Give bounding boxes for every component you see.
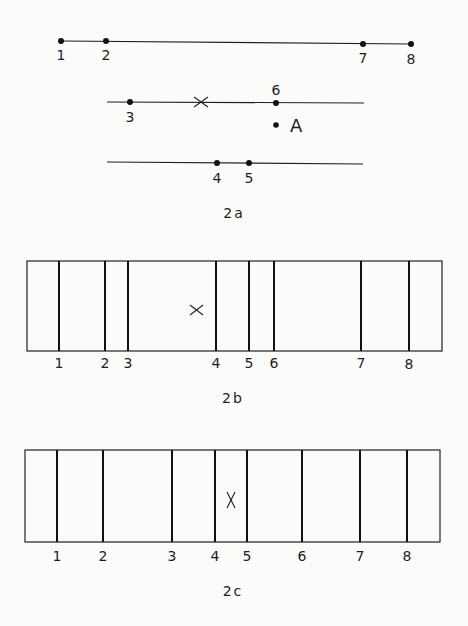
divider-3-label: 3 xyxy=(124,355,133,371)
point-1-label: 1 xyxy=(57,47,66,63)
divider-8-label: 8 xyxy=(405,356,414,372)
line-bottom xyxy=(107,162,363,164)
strip-box-2b xyxy=(27,261,442,351)
caption-2a: 2a xyxy=(223,205,245,221)
divider-2-label: 2 xyxy=(99,548,108,564)
line-middle xyxy=(107,102,364,103)
divider-7-label: 7 xyxy=(357,355,366,371)
panel-2b: 1 2 3 4 5 6 7 8 2b xyxy=(27,261,442,406)
divider-7-label: 7 xyxy=(356,548,365,564)
point-a xyxy=(273,122,279,128)
divider-5-label: 5 xyxy=(245,355,254,371)
figure-2: 1 2 7 8 3 6 A 4 5 2a xyxy=(0,0,468,626)
point-3-label: 3 xyxy=(126,109,135,125)
caption-2b: 2b xyxy=(222,390,244,406)
divider-1-label: 1 xyxy=(53,548,62,564)
divider-4-label: 4 xyxy=(211,548,220,564)
cross-mark-icon xyxy=(190,305,203,315)
point-7-label: 7 xyxy=(359,50,368,66)
divider-3-label: 3 xyxy=(168,548,177,564)
divider-2-label: 2 xyxy=(101,355,110,371)
divider-6-label: 6 xyxy=(270,355,279,371)
divider-5-label: 5 xyxy=(243,548,252,564)
point-2 xyxy=(103,38,109,44)
point-8 xyxy=(408,41,414,47)
point-7 xyxy=(360,41,366,47)
panel-2c: 1 2 3 4 5 6 7 8 2c xyxy=(25,450,440,599)
point-a-label: A xyxy=(290,115,303,136)
divider-4-label: 4 xyxy=(212,355,221,371)
point-5 xyxy=(246,160,252,166)
point-4-label: 4 xyxy=(213,170,222,186)
point-3 xyxy=(127,99,133,105)
point-1 xyxy=(58,38,64,44)
divider-8-label: 8 xyxy=(403,548,412,564)
point-6-label: 6 xyxy=(272,82,281,98)
divider-6-label: 6 xyxy=(298,548,307,564)
point-5-label: 5 xyxy=(245,170,254,186)
line-top xyxy=(61,41,411,44)
point-4 xyxy=(214,160,220,166)
panel-2a: 1 2 7 8 3 6 A 4 5 2a xyxy=(57,38,416,221)
point-2-label: 2 xyxy=(102,47,111,63)
point-6 xyxy=(273,100,279,106)
caption-2c: 2c xyxy=(223,583,244,599)
divider-1-label: 1 xyxy=(55,355,64,371)
point-8-label: 8 xyxy=(407,51,416,67)
x-mark-icon xyxy=(227,492,235,508)
